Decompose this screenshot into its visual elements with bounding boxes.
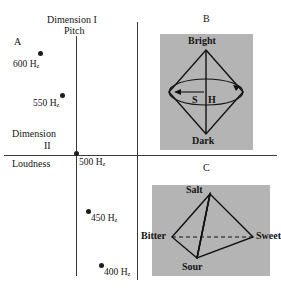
panel-a-origin-point (74, 151, 79, 156)
panel-a-horizontal-axis (4, 155, 277, 156)
panel-a-point-550hz-label-text: 550 H (33, 98, 57, 108)
panel-b-axis-label-left: S (192, 95, 198, 105)
panel-a-vertical-axis (76, 36, 77, 276)
panel-c-apex-label: Salt (186, 185, 203, 195)
panel-a-y-axis-title-line2: II (44, 141, 51, 151)
panel-c-face-left (172, 194, 210, 258)
panel-c-letter: C (203, 163, 210, 173)
panel-a-point-450hz-label-subscript: z (115, 216, 118, 223)
panel-a-point-550hz-label: 550 Hz (33, 99, 59, 109)
panel-a-y-axis-title-line1: Dimension (12, 129, 56, 139)
panel-a-point-550hz (60, 93, 65, 98)
panel-b-top-label: Bright (188, 36, 216, 46)
panel-a-point-550hz-label-subscript: z (57, 101, 60, 108)
panel-c-left-label: Bitter (141, 231, 166, 241)
panel-divider-vertical (137, 22, 138, 280)
panel-b-axis-label-right: H (208, 95, 216, 105)
panel-b-diagram (160, 34, 253, 150)
panel-a-point-600hz (38, 51, 43, 56)
panel-a-point-400hz-label-text: 400 H (104, 267, 128, 277)
panel-a-letter: A (14, 37, 21, 47)
panel-b-arrow-left-head (174, 89, 181, 95)
panel-a-point-600hz-label-subscript: z (37, 62, 40, 69)
panel-a-y-axis-title-line3: Loudness (12, 159, 50, 169)
panel-a-x-axis-title-line1: Dimension I (47, 15, 97, 25)
panel-c-face-right (197, 194, 253, 258)
figure-canvas: Dimension I Pitch A Dimension II Loudnes… (0, 0, 281, 291)
panel-a-origin-label: 500 Hz (79, 158, 105, 168)
panel-a-origin-label-subscript: z (103, 160, 106, 167)
panel-a-point-450hz-label: 450 Hz (91, 214, 117, 224)
panel-c-diagram (152, 185, 270, 276)
panel-a-origin-label-text: 500 H (79, 157, 103, 167)
panel-a-point-600hz-label-text: 600 H (13, 59, 37, 69)
panel-c-front-label: Sour (182, 262, 203, 272)
panel-a-point-400hz-label: 400 Hz (104, 268, 130, 278)
panel-a-point-600hz-label: 600 Hz (13, 60, 39, 70)
panel-b-bottom-label: Dark (192, 136, 214, 146)
panel-b-letter: B (203, 14, 210, 24)
panel-a-point-400hz-label-subscript: z (128, 270, 131, 277)
panel-a-point-450hz-label-text: 450 H (91, 213, 115, 223)
panel-c-right-label: Sweet (256, 231, 281, 241)
panel-c-edge-salt-sour (197, 194, 210, 258)
panel-a-x-axis-title-line2: Pitch (64, 26, 85, 36)
